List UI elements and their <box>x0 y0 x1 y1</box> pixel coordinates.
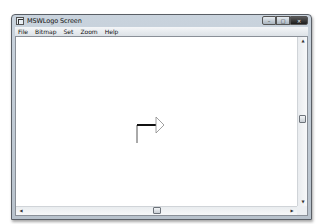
menu-bitmap[interactable]: Bitmap <box>35 27 56 36</box>
title-bar[interactable]: MSWLogo Screen – □ ✕ <box>12 15 311 27</box>
menu-help[interactable]: Help <box>105 27 119 36</box>
vertical-scrollbar[interactable]: ▲ ▼ <box>297 37 307 206</box>
mswlogo-screen-window: MSWLogo Screen – □ ✕ File Bitmap Set Zoo… <box>11 14 312 220</box>
menu-zoom[interactable]: Zoom <box>80 27 97 36</box>
menu-bar: File Bitmap Set Zoom Help <box>15 27 308 36</box>
horizontal-scroll-thumb[interactable] <box>153 207 161 214</box>
scroll-right-arrow-icon[interactable]: ▶ <box>288 208 296 214</box>
scroll-left-arrow-icon[interactable]: ◀ <box>17 208 25 214</box>
menu-file[interactable]: File <box>18 27 28 36</box>
turtle-graphics <box>16 37 298 209</box>
turtle-icon <box>156 117 164 133</box>
window-title: MSWLogo Screen <box>27 16 82 26</box>
scroll-down-arrow-icon[interactable]: ▼ <box>299 199 307 205</box>
size-grip[interactable] <box>297 206 307 215</box>
horizontal-scrollbar[interactable]: ◀ ▶ <box>16 206 297 215</box>
minimize-button[interactable]: – <box>262 16 276 25</box>
drawing-canvas[interactable] <box>16 37 297 206</box>
scroll-up-arrow-icon[interactable]: ▲ <box>299 38 307 44</box>
maximize-button[interactable]: □ <box>276 16 290 25</box>
close-button[interactable]: ✕ <box>290 16 308 25</box>
window-controls: – □ ✕ <box>262 16 308 25</box>
app-icon[interactable] <box>16 17 24 25</box>
menu-set[interactable]: Set <box>64 27 74 36</box>
client-area: ▲ ▼ ◀ ▶ <box>15 36 308 216</box>
vertical-scroll-thumb[interactable] <box>299 115 306 123</box>
